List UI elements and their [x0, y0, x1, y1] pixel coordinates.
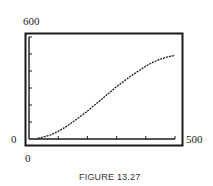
axis-ticks: [29, 37, 175, 139]
axes: [29, 37, 175, 139]
y-min-label: 0: [11, 133, 17, 145]
figure-caption: FIGURE 13.27: [79, 172, 140, 182]
x-min-label: 0: [25, 152, 31, 164]
x-max-label: 500: [186, 133, 203, 145]
chart-frame: [26, 34, 183, 146]
y-max-label: 600: [23, 15, 40, 27]
data-curve: [38, 55, 175, 138]
chart-canvas: [0, 0, 213, 186]
